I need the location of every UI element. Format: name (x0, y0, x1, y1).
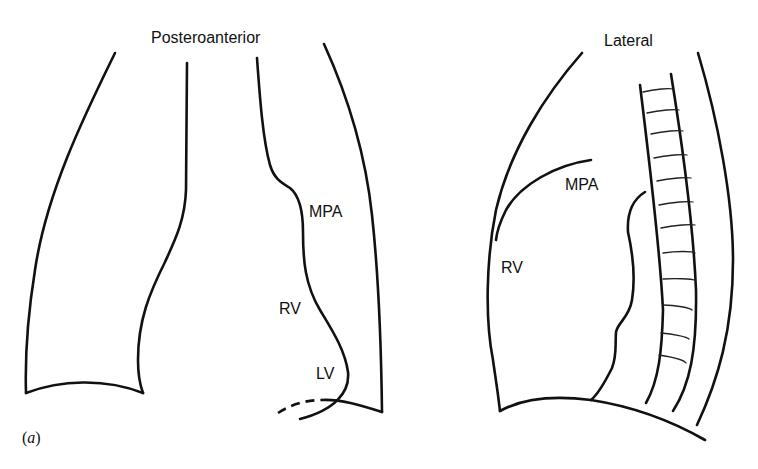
pa-right-lung-base (26, 382, 143, 393)
lateral-title: Lateral (604, 33, 653, 49)
lat-label-rv: RV (501, 260, 523, 276)
pa-title: Posteroanterior (151, 30, 260, 46)
pa-left-lung-outer-border (324, 44, 382, 412)
pa-label-mpa: MPA (309, 204, 342, 220)
lat-posterior-chest-wall (697, 53, 733, 425)
pa-right-mediastinal-border (138, 63, 187, 393)
cardiac-silhouette-diagram (0, 0, 758, 469)
pa-diaphragm-dashed (278, 400, 322, 413)
lat-anterior-chest-wall (488, 53, 582, 411)
lateral-drawing (488, 53, 733, 440)
pa-right-lung-outer-border (26, 53, 115, 393)
pa-label-lv: LV (316, 366, 334, 382)
lat-mpa-curve (496, 160, 591, 240)
pa-label-rv: RV (279, 301, 301, 317)
lat-diaphragm (500, 398, 705, 440)
pa-left-heart-border (257, 58, 348, 419)
lat-label-mpa: MPA (565, 177, 598, 193)
lat-vertebral-lines (643, 89, 695, 363)
posteroanterior-drawing (26, 44, 382, 419)
figure-caption: (a) (22, 430, 41, 446)
lat-posterior-heart-border (591, 192, 645, 400)
